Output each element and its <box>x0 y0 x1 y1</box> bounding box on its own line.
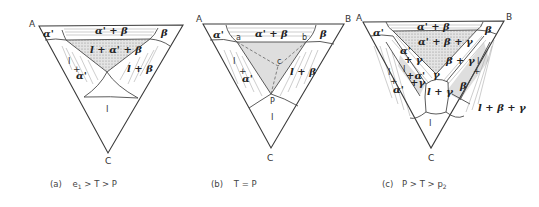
label-beta-gamma: β + γ <box>445 55 475 66</box>
label-alpha: α' <box>213 29 224 40</box>
label-l: l <box>271 112 274 122</box>
label-l-alpha-gamma-g: +γ <box>410 77 425 88</box>
label-l-alpha-a: α' <box>393 84 404 95</box>
label-beta: β <box>160 27 168 38</box>
vertex-C: C <box>267 153 273 163</box>
label-l: l <box>429 118 432 128</box>
label-alpha-beta-gamma: α' + β + γ <box>418 36 473 47</box>
label-l-alpha-a: α' <box>242 73 253 84</box>
panel-b: A B C α' α' + β β a b c P l + α' l + β l… <box>196 14 351 189</box>
label-alpha-gamma-g: + γ <box>404 54 423 65</box>
label-beta: β <box>484 24 492 35</box>
label-l-beta-l: l <box>477 56 480 66</box>
vertex-B: B <box>345 14 351 24</box>
caption-b: (b) T = P <box>211 179 257 189</box>
caption-a: (a) e1 > T > P <box>50 179 117 190</box>
caption-c: (c) P > T > p2 <box>382 179 447 190</box>
label-alpha-beta: α' + β <box>95 25 128 36</box>
vertex-C: C <box>105 156 111 166</box>
point-c: c <box>277 57 281 66</box>
label-beta: β <box>319 28 327 39</box>
label-l-beta-b: β <box>459 80 467 91</box>
panel-a: A C α' α' + β β l + α' + β l + α' l + β … <box>29 19 183 190</box>
label-gamma: γ <box>433 69 440 80</box>
panel-c: A B C α' α' + β β α' + β + γ α' + γ β + … <box>356 12 526 190</box>
ternary-diagram-figure: A C α' α' + β β l + α' + β l + α' l + β … <box>0 0 539 207</box>
label-alpha: α' <box>43 28 54 39</box>
vertex-A: A <box>196 14 203 24</box>
label-l-alpha-l: l <box>68 56 71 66</box>
label-l-gamma: l + γ <box>427 86 453 97</box>
label-l-beta: l + β <box>127 63 153 74</box>
label-l-alpha-l: l <box>233 56 236 66</box>
label-l-beta-gamma: l + β + γ <box>478 102 526 113</box>
label-l-beta-plus: + <box>473 66 481 76</box>
label-l-alpha-a: α' <box>76 70 87 81</box>
label-alpha-beta: α' + β <box>255 28 288 39</box>
label-l-alpha-beta: l + α' + β <box>90 44 142 55</box>
point-a: a <box>236 33 241 42</box>
label-l: l <box>106 104 109 114</box>
point-b: b <box>302 33 307 42</box>
vertex-B: B <box>506 12 512 22</box>
point-P: P <box>270 97 275 106</box>
vertex-C: C <box>428 153 434 163</box>
vertex-A: A <box>29 19 36 29</box>
label-l-beta: l + β <box>290 66 316 77</box>
label-alpha-beta: α' + β <box>417 21 450 32</box>
vertex-A: A <box>356 13 363 23</box>
label-alpha: α' <box>373 27 384 38</box>
